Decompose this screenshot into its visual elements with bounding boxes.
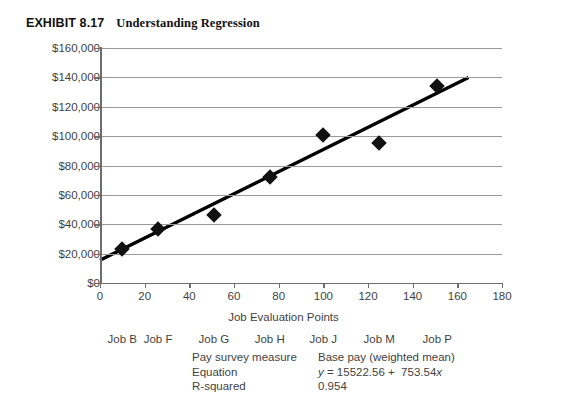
gridline	[100, 107, 502, 108]
y-tick-label: $60,000	[14, 189, 100, 201]
y-tick-label: $160,000	[14, 42, 100, 54]
y-tick-label: $80,000	[14, 160, 100, 172]
stat-row: Equationy = 15522.56 + 753.54x	[192, 365, 455, 380]
x-axis-line	[100, 283, 503, 284]
stat-value: y = 15522.56 + 753.54x	[318, 365, 442, 380]
x-tick-mark	[502, 283, 503, 288]
x-tick-mark	[234, 283, 235, 288]
y-axis-line	[100, 47, 102, 284]
x-tick-mark	[100, 283, 101, 288]
y-tick-label: $40,000	[14, 218, 100, 230]
gridline	[100, 254, 502, 255]
x-tick-mark	[189, 283, 190, 288]
stat-value: 0.954	[318, 379, 347, 394]
gridline	[100, 48, 502, 49]
y-tick-mark	[95, 48, 100, 49]
y-tick-mark	[95, 195, 100, 196]
stat-row: Pay survey measureBase pay (weighted mea…	[192, 350, 455, 365]
x-tick-mark	[457, 283, 458, 288]
x-tick-mark	[413, 283, 414, 288]
x-tick-mark	[145, 283, 146, 288]
y-tick-mark	[95, 224, 100, 225]
y-tick-mark	[95, 166, 100, 167]
x-tick-label: 180	[472, 290, 532, 302]
stats-block: Pay survey measureBase pay (weighted mea…	[192, 350, 455, 394]
y-tick-mark	[95, 136, 100, 137]
stat-label: R-squared	[192, 379, 318, 394]
stat-row: R-squared0.954	[192, 379, 455, 394]
gridline	[100, 166, 502, 167]
plot-area	[100, 48, 502, 283]
gridline	[100, 195, 502, 196]
y-tick-mark	[95, 77, 100, 78]
stat-label: Pay survey measure	[192, 350, 318, 365]
gridline	[100, 77, 502, 78]
x-tick-mark	[323, 283, 324, 288]
gridline	[100, 136, 502, 137]
y-tick-label: $100,000	[14, 130, 100, 142]
x-axis-title: Job Evaluation Points	[0, 311, 567, 323]
stat-value: Base pay (weighted mean)	[318, 350, 455, 365]
y-tick-mark	[95, 107, 100, 108]
y-tick-label: $20,000	[14, 248, 100, 260]
y-tick-label: $140,000	[14, 71, 100, 83]
stat-label: Equation	[192, 365, 318, 380]
y-tick-label: $120,000	[14, 101, 100, 113]
x-tick-mark	[279, 283, 280, 288]
y-tick-mark	[95, 254, 100, 255]
y-tick-label: $0	[14, 277, 100, 289]
regression-chart: $0$20,000$40,000$60,000$80,000$100,000$1…	[0, 0, 567, 395]
job-label-job-p: Job P	[397, 333, 477, 345]
x-tick-mark	[368, 283, 369, 288]
